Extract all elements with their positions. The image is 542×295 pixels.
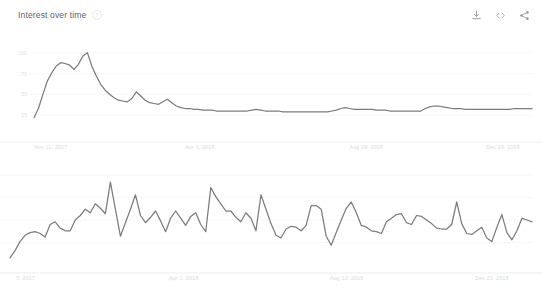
download-icon[interactable] bbox=[471, 10, 482, 21]
x-axis-tick-label: 5, 2017 bbox=[16, 275, 35, 281]
y-axis-tick-label: 50 bbox=[21, 91, 27, 97]
x-axis-tick-label: Apr 1, 2018 bbox=[169, 275, 198, 281]
card-header-left: Interest over time ? bbox=[18, 10, 102, 20]
y-axis-tick-label: 75 bbox=[21, 71, 27, 77]
interest-over-time-weekly-chart[interactable]: 100755025Nov 12, 2017Apr 1, 2018Aug 19, … bbox=[0, 34, 542, 158]
x-axis-tick-label: Dec 23, 2018 bbox=[486, 144, 519, 150]
x-axis-tick-label: Aug 19, 2018 bbox=[350, 144, 383, 150]
x-axis-tick-label: Nov 12, 2017 bbox=[34, 144, 67, 150]
share-icon[interactable] bbox=[519, 10, 530, 21]
y-axis-tick-label: 25 bbox=[21, 112, 27, 118]
header-actions bbox=[471, 10, 530, 21]
embed-icon[interactable] bbox=[495, 10, 506, 21]
trend-line bbox=[34, 53, 532, 118]
interest-over-time-daily-chart[interactable]: 5, 2017Apr 1, 2018Aug 12, 2018Dec 23, 20… bbox=[0, 165, 542, 289]
x-axis-tick-label: Dec 23, 2018 bbox=[475, 275, 508, 281]
y-axis-tick-label: 100 bbox=[18, 50, 27, 56]
interest-over-time-card: Interest over time ? bbox=[0, 0, 542, 295]
page-title: Interest over time bbox=[18, 11, 86, 20]
x-axis-tick-label: Apr 1, 2018 bbox=[185, 144, 214, 150]
chart-panel-daily[interactable]: 5, 2017Apr 1, 2018Aug 12, 2018Dec 23, 20… bbox=[0, 165, 542, 289]
card-header: Interest over time ? bbox=[0, 0, 542, 30]
info-circle-icon[interactable]: ? bbox=[92, 10, 102, 20]
x-axis-tick-label: Aug 12, 2018 bbox=[330, 275, 363, 281]
svg-text:?: ? bbox=[96, 12, 99, 18]
chart-panel-weekly[interactable]: 100755025Nov 12, 2017Apr 1, 2018Aug 19, … bbox=[0, 34, 542, 158]
